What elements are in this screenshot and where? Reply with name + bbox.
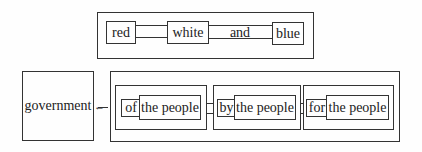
blue-label: blue [272, 22, 304, 45]
arrow-left-icon: ← [94, 101, 105, 112]
the-people-label-3: the people [326, 95, 389, 120]
the-people-label-2: the people [234, 95, 296, 120]
connector-red-white-top [135, 25, 167, 26]
white-label: white [167, 21, 209, 44]
connector-g1-g2-bottom [206, 113, 213, 114]
red-label: red [106, 21, 136, 44]
connector-red-white-bottom [135, 37, 167, 38]
the-people-label-1: the people [139, 95, 201, 120]
of-label: of [121, 97, 141, 119]
and-label: and [208, 21, 272, 44]
connector-g1-g2-top [206, 103, 213, 104]
for-label: for [306, 97, 328, 119]
government-label: government [22, 71, 94, 141]
